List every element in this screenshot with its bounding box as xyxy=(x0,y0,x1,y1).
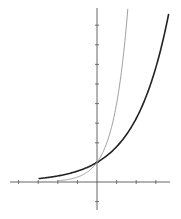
curve-base-1.8 xyxy=(39,15,168,179)
exponential-chart xyxy=(0,0,181,219)
axes xyxy=(10,8,170,210)
curves xyxy=(39,9,168,181)
curve-base-4 xyxy=(58,9,128,181)
chart-plot-area xyxy=(0,0,181,219)
axis-ticks xyxy=(19,25,156,201)
